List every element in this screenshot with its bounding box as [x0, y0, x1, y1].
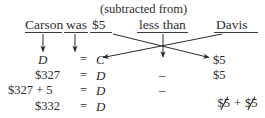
eq2-operator: – — [159, 69, 165, 82]
algebra-translation-figure: (subtracted from) Carson was $5 less tha… — [0, 0, 265, 118]
underline-davis — [214, 32, 258, 33]
phrase-word-was: was — [66, 18, 87, 32]
eq4-left: $332 — [35, 100, 60, 113]
phrase-word-davis: Davis — [216, 18, 248, 32]
eq3-cancelled-pair: $5+$5 — [205, 84, 258, 118]
phrase-word-less-than: less than — [139, 18, 186, 32]
eq3-left: $327 + 5 — [8, 84, 53, 97]
phrase-word-carson: Carson — [25, 18, 63, 32]
underline-less-than — [137, 32, 188, 33]
eq4-equals: = — [80, 100, 87, 113]
eq1-right: D — [38, 53, 47, 66]
eq2-left: $327 — [35, 69, 60, 82]
underline-dollar-five — [90, 32, 112, 33]
eq1-equals: = — [80, 53, 87, 66]
eq3-cancelled-term-b: $5 — [245, 97, 258, 110]
eq3-cancelled-term-a: $5 — [218, 97, 231, 110]
eq3-plus-sign: + — [230, 96, 245, 110]
eq4-right: D — [96, 100, 105, 113]
underline-carson — [25, 32, 62, 33]
eq3-operator: – — [159, 84, 165, 97]
eq1-term: $5 — [213, 54, 226, 67]
eq2-right: D — [96, 69, 105, 82]
subtracted-from-annotation: (subtracted from) — [100, 3, 187, 16]
underline-was — [64, 32, 88, 33]
arrow-dollarfive-to-dollarfive — [113, 34, 209, 58]
eq2-term: $5 — [213, 69, 226, 82]
arrow-davis-to-d — [103, 34, 222, 58]
phrase-word-dollar-five: $5 — [92, 18, 106, 32]
eq1-left: C — [96, 53, 105, 66]
eq3-equals: = — [80, 84, 87, 97]
eq3-right: D — [96, 84, 105, 97]
eq2-equals: = — [80, 69, 87, 82]
